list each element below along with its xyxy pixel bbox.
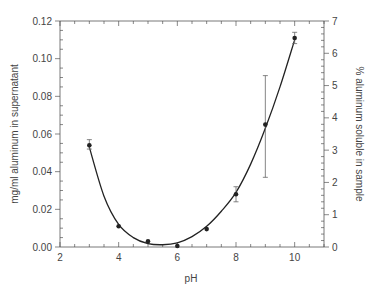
data-point xyxy=(234,192,239,197)
fit-curve xyxy=(89,40,294,245)
y-axis-label-right: % aluminum soluble in sample xyxy=(354,66,365,202)
y-tick-label-right: 2 xyxy=(332,177,338,188)
data-point xyxy=(263,122,268,127)
y-tick-label-left: 0.04 xyxy=(33,166,53,177)
y-tick-label-left: 0.06 xyxy=(33,129,53,140)
x-tick-label: 8 xyxy=(233,252,239,263)
x-tick-label: 4 xyxy=(116,252,122,263)
y-axis-label-left: mg/ml aluminum in supernatant xyxy=(9,64,20,204)
data-point xyxy=(175,244,180,249)
y-tick-label-left: 0.08 xyxy=(33,91,53,102)
data-points xyxy=(87,32,297,248)
y-tick-label-right: 7 xyxy=(332,16,338,27)
data-point xyxy=(204,227,209,232)
y-tick-label-right: 4 xyxy=(332,112,338,123)
x-tick-label: 10 xyxy=(289,252,301,263)
x-axis-label: pH xyxy=(185,273,198,284)
y-tick-label-left: 0.00 xyxy=(33,242,53,253)
y-tick-label-right: 5 xyxy=(332,80,338,91)
y-tick-label-right: 0 xyxy=(332,242,338,253)
y-tick-label-left: 0.12 xyxy=(33,16,53,27)
x-tick-label: 6 xyxy=(175,252,181,263)
y-tick-label-right: 1 xyxy=(332,209,338,220)
data-point xyxy=(146,239,151,244)
x-tick-label: 2 xyxy=(57,252,63,263)
fit-curve-path xyxy=(89,40,294,245)
y-tick-label-left: 0.10 xyxy=(33,53,53,64)
data-point xyxy=(292,36,297,41)
y-tick-label-right: 3 xyxy=(332,145,338,156)
axes: 2468100.000.020.040.060.080.100.12012345… xyxy=(33,16,338,264)
chart: 2468100.000.020.040.060.080.100.12012345… xyxy=(0,0,366,292)
data-point xyxy=(87,143,92,148)
y-tick-label-left: 0.02 xyxy=(33,204,53,215)
data-point xyxy=(116,224,121,229)
y-tick-label-right: 6 xyxy=(332,48,338,59)
